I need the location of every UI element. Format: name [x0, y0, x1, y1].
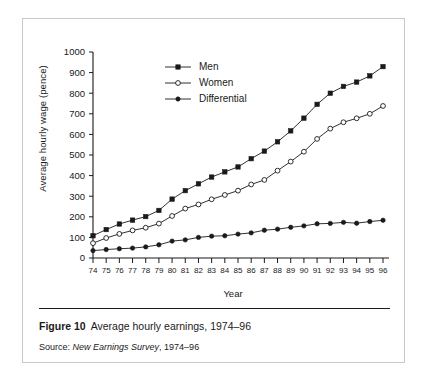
data-point-marker	[91, 234, 95, 238]
x-tick-label: 90	[299, 266, 308, 275]
x-tick-label: 76	[115, 266, 124, 275]
data-point-marker	[341, 120, 346, 125]
data-point-marker	[196, 235, 200, 239]
data-point-marker	[236, 188, 241, 193]
x-tick-label: 81	[181, 266, 190, 275]
x-tick-label: 75	[102, 266, 111, 275]
data-point-marker	[144, 214, 148, 218]
axis-lines	[93, 52, 389, 258]
x-tick-label: 85	[234, 266, 243, 275]
data-point-marker	[143, 225, 148, 230]
data-point-marker	[176, 97, 180, 101]
y-axis-ticks: 01002003004005006007008009001000	[64, 46, 93, 263]
data-point-marker	[354, 80, 358, 84]
caption-divider	[39, 308, 390, 309]
data-point-marker	[262, 149, 266, 153]
data-point-marker	[223, 234, 227, 238]
data-point-marker	[289, 129, 293, 133]
legend-item-men: Men	[165, 61, 218, 72]
data-point-marker	[223, 170, 227, 174]
data-point-marker	[236, 232, 240, 236]
figure-title: Average hourly earnings, 1974–96	[91, 320, 251, 332]
data-point-marker	[381, 64, 385, 68]
data-point-marker	[275, 168, 280, 173]
data-point-marker	[117, 247, 121, 251]
data-point-marker	[157, 221, 162, 226]
x-tick-label: 92	[326, 266, 335, 275]
data-point-marker	[368, 219, 372, 223]
x-tick-label: 95	[365, 266, 374, 275]
data-point-marker	[341, 84, 345, 88]
data-point-marker	[288, 159, 293, 164]
data-point-marker	[183, 238, 187, 242]
data-point-marker	[249, 157, 253, 161]
y-tick-label: 100	[69, 232, 85, 243]
figure-number: Figure 10	[39, 320, 86, 332]
data-point-marker	[381, 218, 385, 222]
data-point-marker	[157, 243, 161, 247]
x-tick-label: 94	[352, 266, 361, 275]
data-point-marker	[91, 248, 95, 252]
figure-caption: Figure 10Average hourly earnings, 1974–9…	[39, 319, 394, 333]
data-point-marker	[236, 165, 240, 169]
x-tick-label: 79	[154, 266, 163, 275]
data-point-marker	[157, 208, 161, 212]
data-point-marker	[302, 116, 306, 120]
data-point-marker	[315, 222, 319, 226]
data-point-marker	[104, 236, 109, 241]
source-years: , 1974–96	[159, 342, 199, 352]
legend-item-women: Women	[165, 77, 233, 88]
data-point-marker	[117, 231, 122, 236]
x-tick-label: 87	[260, 266, 269, 275]
data-point-marker	[367, 111, 372, 116]
x-tick-label: 84	[220, 266, 229, 275]
data-point-marker	[91, 241, 96, 246]
data-point-marker	[130, 218, 134, 222]
data-point-marker	[170, 197, 174, 201]
series-men	[91, 64, 385, 238]
figure-container: Average hourly wage (pence) Year 0100200…	[22, 18, 405, 363]
data-point-marker	[315, 102, 319, 106]
series-differential	[91, 218, 385, 253]
x-tick-label: 80	[168, 266, 177, 275]
data-point-marker	[209, 175, 213, 179]
line-chart-svg: 01002003004005006007008009001000 7475767…	[23, 19, 406, 299]
data-point-marker	[275, 227, 279, 231]
y-tick-label: 300	[69, 191, 85, 202]
x-tick-label: 77	[128, 266, 137, 275]
data-point-marker	[104, 227, 108, 231]
data-point-marker	[328, 221, 332, 225]
x-tick-label: 82	[194, 266, 203, 275]
y-tick-label: 1000	[64, 46, 85, 57]
data-point-marker	[341, 220, 345, 224]
data-point-marker	[354, 116, 359, 121]
data-point-marker	[249, 231, 253, 235]
data-point-marker	[176, 65, 180, 69]
data-point-marker	[315, 137, 320, 142]
data-point-marker	[209, 234, 213, 238]
y-tick-label: 600	[69, 129, 85, 140]
data-point-marker	[104, 247, 108, 251]
data-point-marker	[222, 193, 227, 198]
x-tick-label: 78	[141, 266, 150, 275]
y-tick-label: 500	[69, 149, 85, 160]
x-tick-label: 89	[286, 266, 295, 275]
data-point-marker	[368, 74, 372, 78]
data-point-marker	[209, 197, 214, 202]
data-point-marker	[196, 182, 200, 186]
x-tick-label: 93	[339, 266, 348, 275]
chart-area: Average hourly wage (pence) Year 0100200…	[23, 19, 406, 299]
y-tick-label: 200	[69, 211, 85, 222]
figure-source: Source: New Earnings Survey, 1974–96	[39, 341, 394, 353]
series-women	[91, 104, 386, 246]
data-point-marker	[130, 228, 135, 233]
data-point-marker	[262, 178, 267, 183]
y-tick-label: 800	[69, 88, 85, 99]
data-point-marker	[302, 149, 307, 154]
data-point-marker	[249, 182, 254, 187]
data-point-marker	[196, 202, 201, 207]
legend-item-differential: Differential	[165, 93, 247, 104]
chart-legend: MenWomenDifferential	[165, 61, 247, 104]
source-prefix: Source:	[39, 342, 70, 352]
data-point-marker	[328, 126, 333, 131]
